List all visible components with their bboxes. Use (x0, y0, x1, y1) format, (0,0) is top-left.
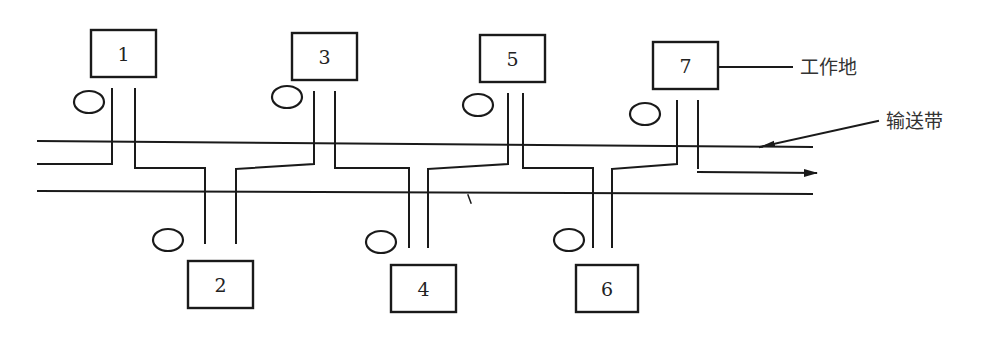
worker-circle-icon (463, 94, 493, 116)
scan-mark (468, 195, 471, 203)
conveyor-bottom-rail (38, 191, 812, 194)
flow-direction-arrow (698, 172, 816, 173)
worker-circle-icon (554, 229, 584, 251)
worker-circle-icon (630, 103, 660, 125)
station-5-number: 5 (506, 48, 518, 70)
conveyor-label: 输送带 (886, 110, 943, 132)
station-5: 5 (463, 35, 545, 116)
station-4-number: 4 (417, 278, 429, 300)
station-4: 4 (366, 231, 456, 312)
station-1-number: 1 (117, 43, 129, 65)
station-3-number: 3 (318, 46, 330, 68)
station-2: 2 (153, 229, 253, 308)
worker-circle-icon (153, 229, 183, 251)
worker-circle-icon (272, 86, 302, 108)
production-line-diagram: 1234567 工作地 输送带 (0, 0, 993, 339)
work-path (38, 89, 698, 247)
station-connectors (38, 89, 698, 247)
worker-circle-icon (74, 91, 104, 113)
station-7-number: 7 (679, 55, 691, 77)
conveyor-top-rail (38, 141, 812, 147)
conveyor-leader-line (760, 121, 878, 147)
conveyor-flow-arrow (698, 172, 816, 173)
workstations: 1234567 (74, 30, 718, 312)
workplace-label: 工作地 (800, 56, 857, 78)
station-2-number: 2 (214, 274, 226, 296)
station-6-number: 6 (601, 278, 613, 300)
station-6: 6 (554, 229, 638, 312)
station-1: 1 (74, 30, 156, 113)
worker-circle-icon (366, 231, 396, 253)
station-7: 7 (630, 42, 718, 125)
